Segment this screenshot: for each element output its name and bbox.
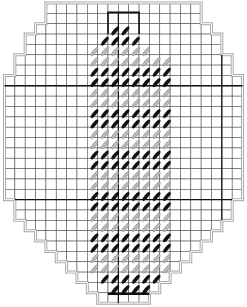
grid-cell — [67, 158, 77, 168]
grid-cell — [170, 107, 180, 117]
grid-cell — [46, 179, 56, 189]
grid-cell — [36, 96, 46, 106]
grid-cell — [56, 169, 66, 179]
grid-cell — [36, 210, 46, 220]
grid-cell — [46, 138, 56, 148]
grid-cell — [25, 107, 35, 117]
grid-cell — [180, 148, 190, 158]
grid-cell — [67, 148, 77, 158]
grid-cell — [56, 231, 66, 241]
grid-cell — [191, 107, 201, 117]
grid-cell — [36, 189, 46, 199]
grid-cell — [170, 138, 180, 148]
grid-cell — [77, 200, 87, 210]
grid-cell — [56, 65, 66, 75]
grid-cell — [191, 34, 201, 44]
grid-cell — [67, 210, 77, 220]
grid-cell — [212, 34, 222, 44]
grid-cell — [5, 189, 15, 199]
grid-cell — [15, 179, 25, 189]
grid-cell — [170, 158, 180, 168]
grid-cell — [46, 220, 56, 230]
grid-cell — [232, 189, 242, 199]
grid-cell — [201, 200, 211, 210]
grid-cell — [160, 13, 170, 23]
grid-cell — [56, 138, 66, 148]
grid-cell — [5, 75, 15, 85]
grid-cell — [36, 148, 46, 158]
grid-cell — [5, 138, 15, 148]
grid-cell — [201, 220, 211, 230]
grid-cell — [67, 24, 77, 34]
grid-cell — [212, 75, 222, 85]
grid-cell — [67, 231, 77, 241]
grid-cell — [118, 13, 128, 23]
grid-cell — [170, 127, 180, 137]
grid-cell — [77, 55, 87, 65]
grid-cell — [212, 44, 222, 54]
grid-cell — [15, 169, 25, 179]
grid-cell — [67, 117, 77, 127]
grid-cell — [180, 138, 190, 148]
grid-cell — [46, 13, 56, 23]
grid-cell — [170, 251, 180, 261]
grid-cell — [67, 107, 77, 117]
grid-cell — [77, 179, 87, 189]
grid-cell — [36, 169, 46, 179]
grid-cell — [149, 44, 159, 54]
grid-cell — [67, 241, 77, 251]
grid-cell — [180, 65, 190, 75]
grid-cell — [222, 210, 232, 220]
grid-cell — [222, 86, 232, 96]
grid-cell — [160, 34, 170, 44]
grid-cell — [180, 34, 190, 44]
grid-cell — [201, 148, 211, 158]
grid-cell — [36, 75, 46, 85]
grid-cell — [191, 65, 201, 75]
grid-cell — [46, 86, 56, 96]
grid-cell — [46, 127, 56, 137]
grid-cell — [180, 127, 190, 137]
grid-cell — [212, 127, 222, 137]
grid-cell — [15, 200, 25, 210]
grid-cell — [170, 241, 180, 251]
grid-cell — [56, 75, 66, 85]
grid-cell — [36, 138, 46, 148]
grid-cell — [77, 107, 87, 117]
grid-cell — [15, 127, 25, 137]
grid-cell — [77, 3, 87, 13]
grid-cell — [67, 251, 77, 261]
grid-cell — [15, 65, 25, 75]
grid-cell — [191, 3, 201, 13]
grid-cell — [201, 169, 211, 179]
grid-cell — [15, 107, 25, 117]
grid-cell — [232, 148, 242, 158]
grid-cell — [160, 3, 170, 13]
grid-cell — [201, 55, 211, 65]
grid-cell — [77, 231, 87, 241]
grid-cell — [222, 148, 232, 158]
grid-cell — [36, 127, 46, 137]
grid-cell — [25, 86, 35, 96]
grid-cell — [77, 241, 87, 251]
grid-cell — [232, 158, 242, 168]
grid-cell — [67, 200, 77, 210]
grid-cell — [77, 158, 87, 168]
grid-cell — [201, 138, 211, 148]
grid-cell — [25, 117, 35, 127]
grid-cell — [212, 117, 222, 127]
grid-cell — [56, 34, 66, 44]
grid-cell — [201, 158, 211, 168]
grid-cell — [222, 65, 232, 75]
grid-cell — [108, 13, 118, 23]
grid-cell — [139, 13, 149, 23]
grid-cell — [139, 34, 149, 44]
grid-cell — [201, 44, 211, 54]
grid-cell — [15, 138, 25, 148]
grid-cell — [67, 34, 77, 44]
grid-cell — [180, 200, 190, 210]
grid-cell — [180, 86, 190, 96]
grid-cell — [46, 117, 56, 127]
grid-cell — [201, 210, 211, 220]
grid-cell — [180, 251, 190, 261]
